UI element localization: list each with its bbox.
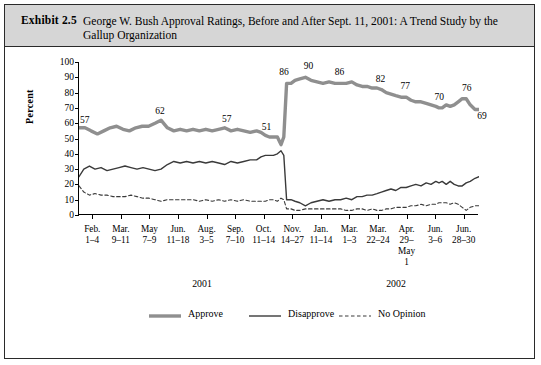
y-tick-mark	[75, 62, 79, 63]
legend-swatch	[148, 308, 182, 322]
x-tick-label: Aug.3–5	[197, 224, 215, 246]
plot-area: 0102030405060708090100	[78, 62, 478, 215]
year-group-label: 2002	[386, 278, 406, 289]
data-point-label: 77	[400, 81, 410, 91]
x-axis-ticks	[78, 215, 478, 223]
legend-swatch	[248, 308, 282, 322]
x-tick-label: Jun.3–6	[428, 224, 443, 246]
exhibit-header: Exhibit 2.5 George W. Bush Approval Rati…	[5, 5, 534, 47]
y-tick-mark	[75, 139, 79, 140]
x-tick-label: Jun.11–18	[167, 224, 190, 246]
x-tick-mark	[321, 215, 322, 219]
y-tick-mark	[75, 108, 79, 109]
data-point-label: 76	[462, 83, 472, 93]
data-point-label: 82	[376, 74, 386, 84]
x-tick-mark	[464, 215, 465, 219]
data-point-label: 86	[279, 67, 289, 77]
exhibit-title: George W. Bush Approval Ratings, Before …	[83, 14, 503, 42]
x-tick-label: Oct.11–14	[252, 224, 275, 246]
x-tick-mark	[378, 215, 379, 219]
x-tick-label: May7–9	[141, 224, 158, 246]
series-no-opinion	[79, 186, 479, 210]
y-tick-mark	[75, 200, 79, 201]
x-tick-mark	[264, 215, 265, 219]
data-point-label: 57	[222, 114, 232, 124]
year-group-label: 2001	[192, 278, 212, 289]
y-tick-mark	[75, 93, 79, 94]
data-point-label: 51	[262, 122, 272, 132]
data-point-label: 70	[434, 92, 444, 102]
data-point-label: 62	[155, 106, 165, 116]
x-tick-mark	[149, 215, 150, 219]
x-tick-mark	[235, 215, 236, 219]
x-tick-label: Mar.1–3	[341, 224, 358, 246]
x-tick-label: Nov.14–27	[281, 224, 304, 246]
x-tick-mark	[207, 215, 208, 219]
chart-page: Exhibit 2.5 George W. Bush Approval Rati…	[0, 0, 541, 365]
legend-label: Disapprove	[288, 308, 334, 319]
x-tick-label: Sep.7–10	[226, 224, 245, 246]
data-point-label: 57	[80, 115, 90, 125]
x-tick-label: Feb.1–4	[84, 224, 100, 246]
series-lines	[79, 62, 479, 215]
x-tick-mark	[435, 215, 436, 219]
x-tick-mark	[121, 215, 122, 219]
legend-label: No Opinion	[378, 308, 426, 319]
x-tick-label: Mar.9–11	[112, 224, 130, 246]
y-tick-mark	[75, 154, 79, 155]
series-disapprove	[79, 151, 479, 206]
legend-label: Approve	[188, 308, 223, 319]
legend-swatch	[338, 308, 372, 322]
x-tick-mark	[349, 215, 350, 219]
data-point-label: 90	[304, 61, 314, 71]
exhibit-number: Exhibit 2.5	[21, 14, 77, 26]
x-tick-label: Apr.29–May1	[398, 224, 415, 268]
y-tick-mark	[75, 123, 79, 124]
data-point-label: 86	[335, 67, 345, 77]
y-tick-mark	[75, 184, 79, 185]
y-axis-label: Percent	[24, 89, 35, 124]
x-axis-labels: Feb.1–4Mar.9–11May7–9Jun.11–18Aug.3–5Sep…	[58, 224, 498, 264]
legend: ApproveDisapproveNo Opinion	[148, 307, 408, 325]
series-approve	[79, 77, 479, 144]
x-tick-mark	[292, 215, 293, 219]
x-tick-mark	[92, 215, 93, 219]
x-tick-mark	[407, 215, 408, 219]
x-tick-label: Jun.28–30	[452, 224, 475, 246]
y-tick-mark	[75, 169, 79, 170]
x-tick-label: Mar.22–24	[366, 224, 389, 246]
x-tick-label: Jan.11–14	[309, 224, 332, 246]
data-point-label: 69	[477, 111, 487, 121]
y-tick-mark	[75, 77, 79, 78]
x-tick-mark	[178, 215, 179, 219]
